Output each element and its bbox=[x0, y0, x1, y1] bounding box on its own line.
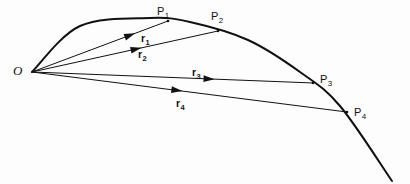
arrowhead-r1 bbox=[124, 33, 135, 40]
vector-diagram-figure: O P1 P2 P3 P4 r1 r2 r3 r4 bbox=[0, 0, 410, 184]
trajectory-curve bbox=[32, 18, 392, 181]
vector-label-r4: r4 bbox=[176, 98, 185, 112]
vector-label-r1: r1 bbox=[141, 33, 150, 47]
point-label-p4: P4 bbox=[354, 107, 366, 121]
point-marker-p2 bbox=[217, 30, 220, 33]
point-label-p2: P2 bbox=[211, 11, 223, 25]
vector-label-r3-subscript: 3 bbox=[196, 72, 200, 81]
arrowhead-r3 bbox=[203, 75, 214, 82]
point-label-p3-subscript: 3 bbox=[327, 79, 332, 88]
point-marker-p4 bbox=[346, 111, 349, 114]
point-label-p1-subscript: 1 bbox=[164, 11, 169, 20]
trajectory-layer bbox=[32, 18, 392, 181]
origin-label: O bbox=[13, 64, 22, 77]
point-label-p1: P1 bbox=[157, 6, 169, 20]
vectors-layer bbox=[32, 21, 347, 112]
vector-label-r1-subscript: 1 bbox=[145, 38, 149, 47]
arrowhead-r4 bbox=[171, 86, 182, 93]
point-label-p4-subscript: 4 bbox=[361, 112, 366, 121]
point-label-p2-subscript: 2 bbox=[218, 16, 223, 25]
vector-label-r3: r3 bbox=[192, 67, 201, 81]
vector-label-r2-subscript: 2 bbox=[142, 54, 146, 63]
diagram-canvas bbox=[0, 0, 410, 184]
point-label-p3: P3 bbox=[320, 74, 332, 88]
point-marker-p3 bbox=[312, 82, 315, 85]
vector-label-r2: r2 bbox=[138, 49, 147, 63]
vector-label-r4-subscript: 4 bbox=[180, 103, 184, 112]
